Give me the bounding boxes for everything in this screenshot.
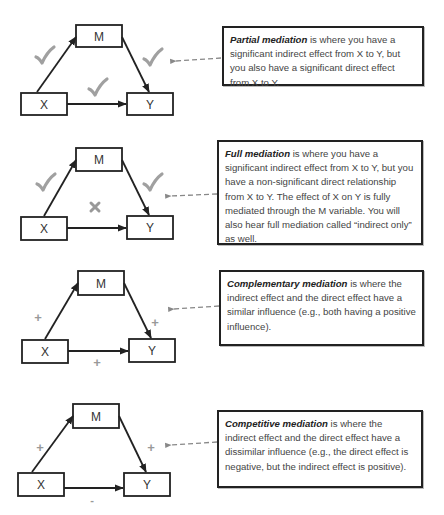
dashed-pointer-arrow — [174, 306, 219, 309]
node-y-label: Y — [146, 98, 154, 112]
full-mediation-description: Full mediation is where you have a signi… — [217, 140, 423, 245]
node-m-label: M — [96, 277, 106, 291]
check-icon — [144, 49, 162, 65]
diagram-partial-mediation: M X Y — [21, 25, 221, 115]
arrow-x-to-m — [45, 283, 78, 339]
arrow-m-to-y — [119, 416, 146, 472]
term-label: Partial mediation — [230, 34, 307, 45]
plus-sign-x-to-m: + — [36, 440, 44, 455]
node-m-label: M — [91, 410, 101, 424]
arrow-m-to-y — [124, 283, 151, 338]
arrow-x-to-m — [37, 37, 76, 92]
plus-sign-x-to-y: + — [93, 355, 101, 370]
term-label: Complementary mediation — [227, 278, 347, 289]
dashed-pointer-arrow — [176, 58, 221, 61]
check-icon — [37, 174, 55, 190]
node-y-label: Y — [143, 478, 151, 492]
minus-sign-x-to-y: - — [90, 494, 94, 506]
node-x-label: X — [40, 222, 48, 236]
plus-sign-m-to-y: + — [147, 440, 155, 455]
term-label: Competitive mediation — [225, 418, 328, 429]
plus-sign-m-to-y: + — [151, 315, 159, 330]
diagram-complementary-mediation: M X Y + + + — [22, 271, 219, 370]
node-x-label: X — [37, 478, 45, 492]
term-label: Full mediation — [225, 148, 290, 159]
diagram-full-mediation: M X Y — [21, 148, 217, 240]
dashed-pointer-arrow — [171, 194, 217, 196]
diagram-competitive-mediation: M X Y + + - — [18, 404, 217, 506]
complementary-mediation-description: Complementary mediation is where the ind… — [219, 270, 424, 346]
competitive-mediation-description: Competitive mediation is where the indir… — [217, 410, 423, 488]
description-text: is where you have a significant indirect… — [225, 148, 413, 244]
check-icon — [89, 79, 107, 95]
arrow-x-to-m — [44, 160, 76, 216]
node-x-label: X — [40, 98, 48, 112]
node-y-label: Y — [146, 221, 154, 235]
x-icon — [91, 203, 99, 211]
check-icon — [144, 174, 162, 190]
node-m-label: M — [94, 153, 104, 167]
arrow-m-to-y — [122, 37, 149, 92]
node-m-label: M — [94, 30, 104, 44]
partial-mediation-description: Partial mediation is where you have a si… — [222, 26, 424, 86]
node-y-label: Y — [148, 344, 156, 358]
node-x-label: X — [41, 345, 49, 359]
dashed-pointer-arrow — [171, 442, 217, 445]
plus-sign-x-to-m: + — [34, 310, 42, 325]
check-icon — [36, 47, 54, 63]
arrow-m-to-y — [122, 160, 149, 215]
